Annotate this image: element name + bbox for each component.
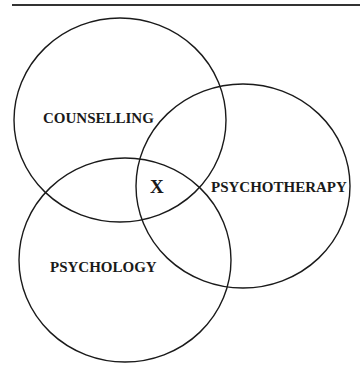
intersection-x-label: X	[150, 176, 164, 197]
psychotherapy-label: PSYCHOTHERAPY	[211, 179, 347, 195]
counselling-label: COUNSELLING	[43, 110, 154, 126]
venn-diagram: COUNSELLING PSYCHOTHERAPY PSYCHOLOGY X	[0, 0, 360, 369]
psychology-label: PSYCHOLOGY	[50, 259, 157, 275]
